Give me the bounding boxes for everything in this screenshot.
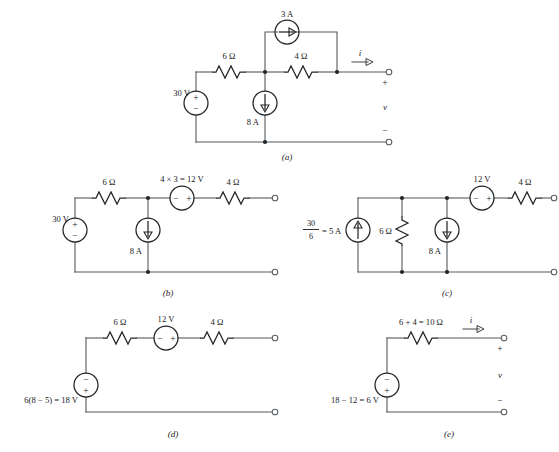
source-8a-b-label: 8 A (130, 246, 143, 256)
source-30v-b-label: 30 V (52, 214, 70, 224)
source-12v-c-label: 12 V (474, 174, 492, 184)
caption-e: (e) (444, 429, 454, 439)
terminal-d-top (272, 335, 278, 341)
source-30v-b-plus: + (72, 220, 77, 230)
source-30v-b-minus: − (72, 231, 77, 241)
source-6v-e-label: 18 − 12 = 6 V (331, 395, 380, 405)
source-12v-b-plus: + (186, 194, 191, 204)
voltage-label-e: v (498, 370, 502, 380)
resistor-6ohm-b (92, 192, 126, 204)
terminal-c-bottom (551, 269, 557, 275)
resistor-10ohm-e-label: 6 + 4 = 10 Ω (399, 317, 443, 327)
resistor-6ohm-c-label: 6 Ω (379, 226, 392, 236)
source-12v-c-plus: + (486, 194, 491, 204)
resistor-4ohm-c (508, 192, 542, 204)
node-dot-c-4 (445, 270, 449, 274)
resistor-6ohm-d-label: 6 Ω (114, 317, 127, 327)
source-18v-d-plus: + (83, 386, 88, 396)
source-30v-a-plus: + (193, 93, 198, 103)
source-12v-d-label: 12 V (158, 314, 176, 324)
terminal-c-top (551, 195, 557, 201)
source-12v-b-label: 4 × 3 = 12 V (160, 174, 204, 184)
circuit-c: 30 6 = 5 A 6 Ω 8 A − + 12 V 4 Ω (c) (303, 174, 557, 298)
caption-d: (d) (168, 429, 179, 439)
terminal-e-top (501, 335, 507, 341)
source-5a-c-result: = 5 A (322, 226, 342, 236)
current-label-e: i (470, 315, 473, 325)
node-dot-a-3 (263, 140, 267, 144)
source-6v-e-plus: + (384, 386, 389, 396)
source-30v-a-label: 30 V (173, 88, 191, 98)
caption-a: (a) (282, 152, 293, 162)
terminal-e-minus: − (497, 396, 502, 406)
node-dot-c-1 (400, 196, 404, 200)
node-dot-c-2 (445, 196, 449, 200)
voltage-label-a: v (383, 102, 387, 112)
resistor-6ohm-d (103, 332, 137, 344)
source-8a-a-label: 8 A (247, 117, 260, 127)
terminal-d-bottom (272, 409, 278, 415)
resistor-4ohm-b (216, 192, 250, 204)
source-18v-d-minus: − (83, 375, 88, 385)
source-8a-c-label: 8 A (429, 246, 442, 256)
circuit-b: 6 Ω 4 Ω − + 4 × 3 = 12 V + − 30 V 8 A (b… (52, 174, 278, 298)
circuit-a: + − 30 V 8 A 3 A 6 Ω 4 Ω i + − v (a) (173, 9, 392, 162)
circuit-figure: + − 30 V 8 A 3 A 6 Ω 4 Ω i + − v (a) (0, 0, 559, 452)
source-30v-a-minus: − (193, 104, 198, 114)
resistor-4ohm-d (200, 332, 234, 344)
resistor-6ohm-a (212, 66, 246, 78)
resistor-4ohm-c-label: 4 Ω (519, 177, 532, 187)
terminal-e-plus: + (497, 344, 502, 354)
source-12v-c-minus: − (473, 194, 478, 204)
caption-c: (c) (442, 288, 452, 298)
node-dot-b-2 (146, 270, 150, 274)
resistor-4ohm-b-label: 4 Ω (227, 177, 240, 187)
source-3a-a-label: 3 A (281, 9, 294, 19)
resistor-4ohm-d-label: 4 Ω (211, 317, 224, 327)
terminal-a-top (386, 69, 392, 75)
caption-b: (b) (163, 288, 174, 298)
node-dot-a-1 (263, 70, 267, 74)
source-12v-b-minus: − (173, 194, 178, 204)
terminal-b-bottom (272, 269, 278, 275)
current-label-a: i (359, 48, 362, 58)
node-dot-c-3 (400, 270, 404, 274)
resistor-10ohm-e (404, 332, 438, 344)
node-dot-b-1 (146, 196, 150, 200)
resistor-4ohm-a-label: 4 Ω (295, 51, 308, 61)
circuit-e: 6 + 4 = 10 Ω − + 18 − 12 = 6 V i + − v (… (331, 315, 507, 439)
circuit-diagram-canvas: + − 30 V 8 A 3 A 6 Ω 4 Ω i + − v (a) (0, 0, 559, 452)
terminal-e-bottom (501, 409, 507, 415)
terminal-a-minus: − (382, 126, 387, 136)
source-6v-e-minus: − (384, 375, 389, 385)
terminal-a-bottom (386, 139, 392, 145)
node-dot-a-2 (335, 70, 339, 74)
circuit-d: 6 Ω − + 12 V 4 Ω − + 6(8 − 5) = 18 V (d) (24, 314, 278, 439)
terminal-b-top (272, 195, 278, 201)
resistor-6ohm-b-label: 6 Ω (103, 177, 116, 187)
resistor-6ohm-c (396, 216, 408, 246)
resistor-4ohm-a (284, 66, 318, 78)
source-12v-d-minus: − (157, 334, 162, 344)
resistor-6ohm-a-label: 6 Ω (223, 51, 236, 61)
source-5a-c-numerator: 30 (307, 219, 315, 228)
source-5a-c-denominator: 6 (309, 232, 313, 241)
terminal-a-plus: + (382, 78, 387, 88)
source-12v-d-plus: + (170, 334, 175, 344)
source-18v-d-label: 6(8 − 5) = 18 V (24, 395, 78, 405)
